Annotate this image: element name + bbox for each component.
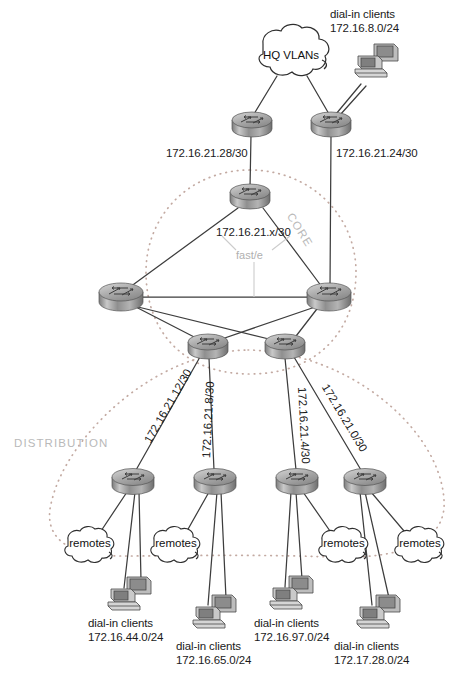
clients-28-title: dial-in clients bbox=[334, 640, 399, 652]
clients-44-title: dial-in clients bbox=[88, 617, 153, 629]
distribution-zone-label: DISTRIBUTION bbox=[14, 437, 108, 449]
clients-65-subnet: 172.16.65.0/24 bbox=[176, 654, 251, 666]
hq-dialin-clients-title: dial-in clients bbox=[330, 8, 395, 20]
host-clients-28[interactable] bbox=[357, 595, 400, 628]
core-subnet-label: 172.16.21.x/30 bbox=[216, 226, 291, 238]
link-label-hq-left: 172.16.21.28/30 bbox=[166, 147, 248, 159]
fast-ethernet-label: fast/e bbox=[236, 249, 263, 261]
clients-65-title: dial-in clients bbox=[176, 640, 241, 652]
clients-97-subnet: 172.16.97.0/24 bbox=[254, 631, 329, 643]
remotes-cloud-label-4: remotes bbox=[392, 537, 448, 549]
clients-28-subnet: 172.17.28.0/24 bbox=[334, 654, 409, 666]
hq-dialin-clients-subnet: 172.16.8.0/24 bbox=[330, 22, 399, 34]
network-topology-diagram: dial-in clients 172.16.8.0/24 HQ VLANs 1… bbox=[0, 0, 461, 684]
link-label-hq-right: 172.16.21.24/30 bbox=[336, 147, 418, 159]
hq-vlans-cloud-label: HQ VLANs bbox=[261, 49, 321, 61]
hosts-layer bbox=[0, 0, 461, 684]
remotes-cloud-label-2: remotes bbox=[148, 537, 204, 549]
remotes-cloud-label-3: remotes bbox=[316, 537, 372, 549]
clients-44-subnet: 172.16.44.0/24 bbox=[88, 631, 163, 643]
clients-97-title: dial-in clients bbox=[254, 617, 319, 629]
host-clients-65[interactable] bbox=[193, 595, 236, 628]
remotes-cloud-label-1: remotes bbox=[62, 537, 118, 549]
host-clients-97[interactable] bbox=[270, 576, 313, 609]
host-hq-dialin-clients[interactable] bbox=[355, 44, 398, 77]
host-clients-44[interactable] bbox=[108, 577, 151, 610]
